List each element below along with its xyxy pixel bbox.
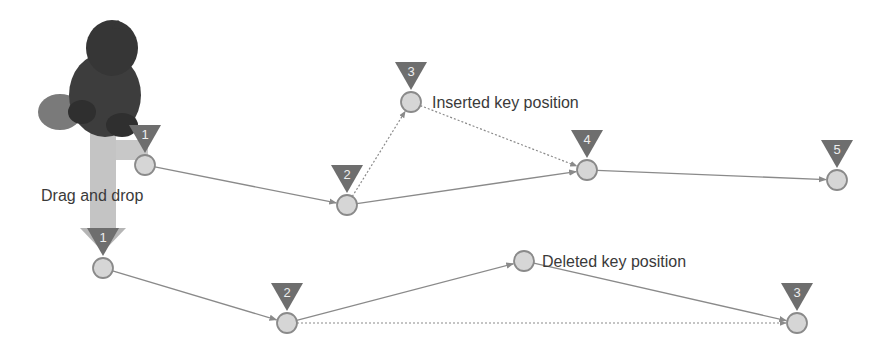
bottom-key-node-bd[interactable] [514,251,534,271]
key-marker-number: 1 [141,127,148,142]
top-key-node-t4[interactable]: 4 [571,130,603,180]
bottom-edge-b2-bd [297,264,514,321]
top-key-node-t3[interactable]: 3 [395,62,427,112]
top-edge-t1-t2 [155,167,336,203]
key-marker-number: 4 [583,132,590,147]
bottom-key-node-b3[interactable]: 3 [781,283,813,333]
bottom-key-node-b2[interactable]: 2 [271,283,303,333]
top-edge-t2-t3 [352,111,405,196]
key-position-circle[interactable] [337,195,357,215]
keyframe-diagram: 12345123 [0,0,886,353]
key-position-circle[interactable] [827,170,847,190]
deleted-key-position-label: Deleted key position [542,253,686,271]
top-edge-t3-t4 [420,106,576,166]
key-position-circle[interactable] [135,155,155,175]
key-position-circle[interactable] [787,313,807,333]
key-marker-number: 1 [99,230,106,245]
dragged-object-figure [38,20,141,137]
key-marker-number: 3 [793,285,800,300]
key-position-circle[interactable] [577,160,597,180]
bottom-key-node-b1[interactable]: 1 [87,228,119,278]
key-position-circle[interactable] [514,251,534,271]
drag-and-drop-label: Drag and drop [41,187,143,205]
key-marker-number: 3 [407,64,414,79]
key-position-circle[interactable] [93,258,113,278]
key-position-circle[interactable] [277,313,297,333]
top-edge-t4-t5 [597,170,826,179]
bottom-edge-b1-b2 [113,271,277,320]
key-marker-number: 5 [833,142,840,157]
key-marker-number: 2 [283,285,290,300]
top-key-node-t5[interactable]: 5 [821,140,853,190]
top-key-node-t2[interactable]: 2 [331,165,363,215]
inserted-key-position-label: Inserted key position [432,94,579,112]
top-edge-t2-t4 [357,172,576,204]
key-position-circle[interactable] [401,92,421,112]
key-marker-number: 2 [343,167,350,182]
bottom-edge-bd-b3 [534,263,787,320]
